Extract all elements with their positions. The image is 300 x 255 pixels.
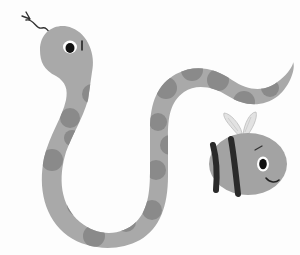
bee [209, 112, 287, 195]
bee-eye [259, 159, 267, 169]
snake [22, 12, 294, 248]
illustration-scene: Cartoon illustration of a spotted snake … [0, 0, 300, 255]
bee-body [209, 133, 287, 195]
bee-stripe-1 [213, 145, 217, 190]
snake-eye [66, 43, 75, 53]
illustration-canvas [0, 0, 300, 255]
